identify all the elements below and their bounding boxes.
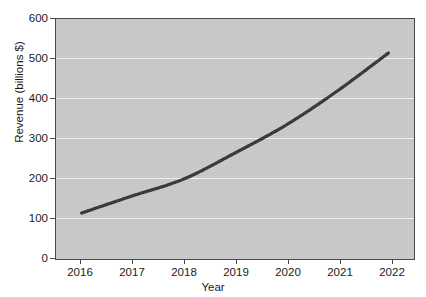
- x-tick-mark: [340, 259, 341, 264]
- x-tick-label-2021: 2021: [310, 266, 370, 279]
- y-tick-label: 200: [2, 172, 48, 184]
- y-tick-200: 200: [0, 172, 48, 184]
- x-tick-mark: [80, 259, 81, 264]
- x-tick-mark: [132, 259, 133, 264]
- x-tick-mark: [236, 259, 237, 264]
- x-tick-label-2016: 2016: [50, 266, 110, 279]
- revenue-line-path: [82, 53, 389, 213]
- y-axis-label-holder: Revenue (billions $): [9, 12, 27, 172]
- x-tick-mark: [288, 259, 289, 264]
- x-tick-mark: [184, 259, 185, 264]
- y-tick-100: 100: [0, 212, 48, 224]
- x-tick-mark: [392, 259, 393, 264]
- line-chart-figure: 600 500 400 300 200 100 0: [0, 0, 426, 297]
- y-axis-label: Revenue (billions $): [13, 41, 25, 143]
- y-tick-label: 100: [2, 212, 48, 224]
- x-axis-label: Year: [0, 281, 426, 293]
- x-tick-label-2018: 2018: [154, 266, 214, 279]
- y-tick-0: 0: [0, 252, 48, 264]
- plot-area: [55, 18, 415, 260]
- x-tick-label-2022: 2022: [362, 266, 422, 279]
- x-tick-label-2020: 2020: [258, 266, 318, 279]
- revenue-line-series: [56, 19, 414, 259]
- x-tick-label-2017: 2017: [102, 266, 162, 279]
- y-tick-label: 0: [2, 252, 48, 264]
- x-tick-label-2019: 2019: [206, 266, 266, 279]
